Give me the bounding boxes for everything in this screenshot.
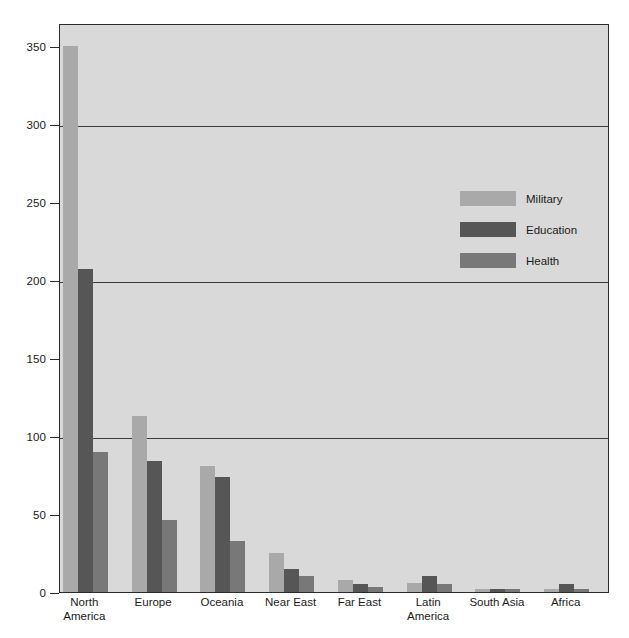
bar-group — [338, 25, 383, 592]
chart-legend: MilitaryEducationHealth — [460, 186, 580, 279]
y-tick-label: 350 — [27, 41, 47, 53]
bar-education — [353, 584, 368, 592]
bar-group — [269, 25, 314, 592]
x-axis-label: Africa — [521, 596, 611, 610]
bar-education — [147, 461, 162, 592]
legend-swatch-military — [460, 191, 516, 206]
bar-health — [574, 589, 589, 592]
bar-military — [544, 589, 559, 592]
bar-education — [422, 576, 437, 592]
bar-education — [559, 584, 574, 592]
bar-group — [407, 25, 452, 592]
bar-health — [93, 452, 108, 592]
bar-military — [200, 466, 215, 592]
y-tick-label: 150 — [27, 353, 47, 365]
plot-area: MilitaryEducationHealth — [59, 24, 609, 593]
y-axis: 050100150200250300350 — [0, 0, 59, 638]
bar-chart: 050100150200250300350 MilitaryEducationH… — [0, 0, 629, 638]
bar-education — [78, 269, 93, 592]
bar-education — [284, 569, 299, 592]
y-tick-250 — [50, 203, 59, 204]
bar-group — [63, 25, 108, 592]
bar-group — [200, 25, 245, 592]
y-tick-label: 200 — [27, 275, 47, 287]
bar-group — [475, 25, 520, 592]
bar-health — [505, 589, 520, 592]
legend-item: Health — [460, 248, 580, 273]
legend-swatch-education — [460, 222, 516, 237]
y-tick-100 — [50, 437, 59, 438]
y-tick-50 — [50, 515, 59, 516]
y-tick-label: 250 — [27, 197, 47, 209]
bar-military — [475, 589, 490, 592]
bar-military — [269, 553, 284, 592]
y-tick-200 — [50, 281, 59, 282]
x-axis-labels: North AmericaEuropeOceaniaNear EastFar E… — [59, 596, 609, 638]
legend-swatch-health — [460, 253, 516, 268]
bar-health — [230, 541, 245, 592]
bar-education — [215, 477, 230, 592]
bar-health — [368, 587, 383, 592]
y-tick-label: 300 — [27, 119, 47, 131]
bar-group — [132, 25, 177, 592]
legend-label: Military — [526, 193, 562, 205]
bar-health — [162, 520, 177, 592]
y-tick-300 — [50, 125, 59, 126]
legend-label: Health — [526, 255, 559, 267]
bar-health — [299, 576, 314, 592]
bar-military — [338, 580, 353, 592]
bar-military — [132, 416, 147, 592]
bar-health — [437, 584, 452, 592]
y-tick-0 — [50, 593, 59, 594]
bar-education — [490, 589, 505, 592]
legend-item: Military — [460, 186, 580, 211]
bar-group — [544, 25, 589, 592]
legend-item: Education — [460, 217, 580, 242]
y-tick-150 — [50, 359, 59, 360]
bar-military — [407, 583, 422, 592]
y-tick-label: 50 — [33, 509, 46, 521]
legend-label: Education — [526, 224, 577, 236]
y-tick-label: 100 — [27, 431, 47, 443]
bar-military — [63, 46, 78, 592]
y-tick-350 — [50, 47, 59, 48]
bars-layer — [60, 25, 608, 592]
